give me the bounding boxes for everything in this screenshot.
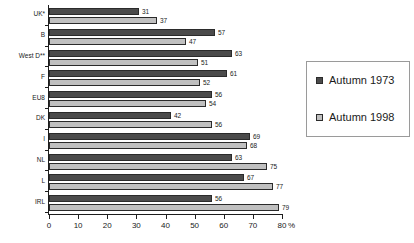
category-label-text: IRL (35, 198, 45, 205)
bar-1973 (49, 195, 212, 202)
category-label-text: L (41, 177, 45, 184)
y-axis-tick (45, 46, 48, 47)
category-label-text: UK* (33, 10, 45, 17)
legend-entry-autumn-1973: Autumn 1973 (316, 74, 394, 86)
category-label-text: NL (37, 156, 45, 163)
y-axis-category-label: NL (0, 156, 45, 164)
x-axis-tick (166, 215, 167, 219)
bar-1998 (49, 142, 247, 149)
legend-swatch-icon (316, 77, 323, 84)
bar-1973 (49, 50, 232, 57)
category-label-text: F (41, 73, 45, 80)
x-axis-tick-label: 70 (248, 221, 257, 230)
bar-value-label: 56 (215, 91, 222, 98)
y-axis-category-label: L (0, 177, 45, 185)
category-label-text: West D** (19, 52, 45, 59)
y-axis-tick (45, 129, 48, 130)
y-axis-category-label: IRL (0, 198, 45, 206)
bar-1973 (49, 112, 171, 119)
bar-1998 (49, 59, 198, 66)
x-axis-tick (136, 215, 137, 219)
bar-value-label: 54 (209, 100, 216, 107)
legend-label: Autumn 1998 (329, 111, 394, 123)
bar-value-label: 42 (174, 112, 181, 119)
bar-value-label: 52 (203, 79, 210, 86)
y-axis-category-label: UK* (0, 10, 45, 18)
y-axis-tick (45, 150, 48, 151)
bar-1998 (49, 183, 273, 190)
x-axis-tick-label: 10 (74, 221, 83, 230)
bar-value-label: 77 (276, 183, 283, 190)
bar-1998 (49, 17, 157, 24)
category-label-text: B (41, 31, 45, 38)
bar-value-label: 31 (142, 8, 149, 15)
bar-value-label: 56 (215, 195, 222, 202)
y-axis-tick (45, 87, 48, 88)
y-axis-category-label: West D** (0, 52, 45, 60)
legend-swatch-icon (316, 114, 323, 121)
category-label-text: EU8 (32, 94, 45, 101)
chart-legend: Autumn 1973 Autumn 1998 (306, 61, 410, 137)
bar-value-label: 63 (235, 50, 242, 57)
bar-1998 (49, 38, 186, 45)
bar-value-label: 37 (160, 17, 167, 24)
bar-1973 (49, 174, 244, 181)
x-axis-tick (78, 215, 79, 219)
bar-1973 (49, 70, 227, 77)
bar-1973 (49, 91, 212, 98)
bar-value-label: 68 (250, 142, 257, 149)
bar-1998 (49, 163, 267, 170)
bar-1998 (49, 121, 212, 128)
bar-value-label: 47 (189, 38, 196, 45)
x-axis-tick-label: 50 (190, 221, 199, 230)
x-axis-tick-label: 20 (103, 221, 112, 230)
legend-entry-autumn-1998: Autumn 1998 (316, 111, 394, 123)
y-axis-tick (45, 66, 48, 67)
bar-1998 (49, 204, 279, 211)
bar-value-label: 56 (215, 121, 222, 128)
bar-value-label: 75 (270, 163, 277, 170)
bar-value-label: 57 (218, 29, 225, 36)
y-axis-tick (45, 25, 48, 26)
x-axis-unit-label: % (288, 221, 295, 230)
bar-1973 (49, 8, 139, 15)
category-label-text: DK (36, 114, 45, 121)
y-axis-category-label: EU8 (0, 94, 45, 102)
x-axis-tick-label: 60 (219, 221, 228, 230)
y-axis-category-label: DK (0, 114, 45, 122)
y-axis-tick (45, 191, 48, 192)
bar-1973 (49, 133, 250, 140)
legend-label: Autumn 1973 (329, 74, 394, 86)
bar-value-label: 69 (253, 133, 260, 140)
bar-value-label: 63 (235, 154, 242, 161)
x-axis-tick (107, 215, 108, 219)
bar-1998 (49, 79, 200, 86)
bar-1998 (49, 100, 206, 107)
x-axis-tick-label: 30 (132, 221, 141, 230)
bar-value-label: 79 (282, 204, 289, 211)
y-axis-category-label: F (0, 73, 45, 81)
x-axis-tick (282, 215, 283, 219)
x-axis-tick (253, 215, 254, 219)
y-axis-category-label: B (0, 31, 45, 39)
bar-1973 (49, 154, 232, 161)
x-axis-tick-label: 0 (47, 221, 51, 230)
x-axis-tick (49, 215, 50, 219)
x-axis-tick-label: 80 (278, 221, 287, 230)
y-axis-category-label: I (0, 135, 45, 143)
category-label-text: I (43, 135, 45, 142)
bar-1973 (49, 29, 215, 36)
bar-value-label: 61 (230, 70, 237, 77)
bar-value-label: 67 (247, 174, 254, 181)
x-axis-tick (224, 215, 225, 219)
x-axis-tick-label: 40 (161, 221, 170, 230)
x-axis-tick (195, 215, 196, 219)
y-axis-tick (45, 212, 48, 213)
y-axis-tick (45, 108, 48, 109)
bar-value-label: 51 (201, 59, 208, 66)
bar-chart: 01020304050607080 % UK*BWest D**FEU8DKIN… (0, 0, 414, 243)
y-axis-tick (45, 170, 48, 171)
